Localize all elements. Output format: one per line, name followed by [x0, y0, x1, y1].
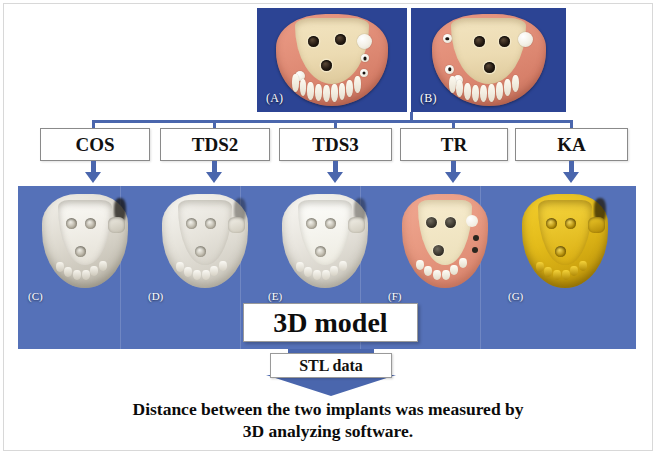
connector-bus [92, 120, 573, 123]
method-label: TDS3 [312, 134, 358, 156]
reference-marker [518, 32, 533, 47]
model-cell-g: (G) [506, 194, 624, 290]
method-box-tds2[interactable]: TDS2 [160, 128, 270, 161]
model-label-f: (F) [388, 290, 401, 302]
arrow-head [206, 172, 222, 183]
master-cast-photo-row: (A) [257, 8, 566, 112]
tooth-row [291, 69, 374, 102]
stl-data-box[interactable]: STL data [270, 353, 392, 378]
model-cell-e: (E) [266, 194, 384, 290]
model-cell-d: (D) [146, 194, 264, 290]
arrow-head [85, 172, 101, 183]
model-cell-f: (F) [386, 194, 504, 290]
model-label-d: (D) [148, 290, 163, 302]
model-cell-c: (C) [26, 194, 144, 290]
photo-label-b: (B) [420, 91, 437, 106]
master-cast-photo-b: (B) [411, 8, 566, 112]
stl-data-label: STL data [299, 357, 363, 375]
model-label-g: (G) [508, 290, 523, 302]
model-label-e: (E) [268, 290, 282, 302]
method-box-tr[interactable]: TR [400, 128, 508, 161]
scan-model-c [42, 194, 128, 288]
arrow-head [327, 172, 343, 183]
arrow-head [563, 172, 579, 183]
method-label: KA [557, 134, 586, 156]
method-box-cos[interactable]: COS [40, 128, 150, 161]
scan-model-g [522, 194, 608, 288]
caption-line-2: 3D analyzing software. [28, 420, 628, 442]
caption-line-1: Distance between the two implants was me… [28, 398, 628, 420]
figure-caption: Distance between the two implants was me… [28, 398, 628, 443]
method-label: COS [75, 134, 114, 156]
scan-model-e [282, 194, 368, 288]
method-box-tds3[interactable]: TDS3 [279, 128, 392, 161]
scan-model-d [162, 194, 248, 288]
method-label: TDS2 [192, 134, 238, 156]
workflow-figure: (A) [0, 0, 656, 454]
method-label: TR [441, 134, 467, 156]
scan-model-f [402, 194, 488, 288]
method-box-ka[interactable]: KA [515, 128, 628, 161]
three-d-model-box[interactable]: 3D model [243, 303, 418, 342]
photo-label-a: (A) [266, 91, 283, 106]
tooth-row [446, 69, 530, 102]
reference-marker [357, 34, 372, 49]
model-label-c: (C) [28, 290, 43, 302]
arrow-head [445, 172, 461, 183]
three-d-model-label: 3D model [273, 307, 387, 339]
master-cast-photo-a: (A) [257, 8, 407, 112]
